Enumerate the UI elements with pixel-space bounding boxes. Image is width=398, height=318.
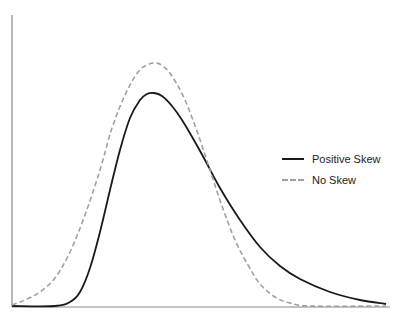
legend-label: No Skew [312,174,356,186]
positive-skew-curve [12,93,386,306]
dashed-line-icon [282,179,304,181]
legend-item-positive-skew: Positive Skew [282,148,380,169]
legend-label: Positive Skew [312,153,380,165]
legend-item-no-skew: No Skew [282,169,380,190]
legend: Positive Skew No Skew [282,148,380,190]
solid-line-icon [282,158,304,160]
